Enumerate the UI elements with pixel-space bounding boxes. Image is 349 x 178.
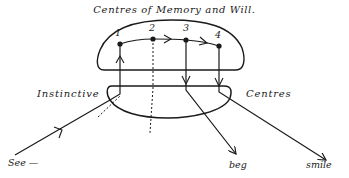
instinctive-label: Instinctive [37, 88, 99, 99]
node-4-label: 4 [215, 29, 221, 40]
node-1 [117, 41, 122, 46]
node-2-label: 2 [149, 22, 155, 33]
output-path-beg [186, 40, 236, 154]
arrow-3-4-icon [199, 37, 207, 45]
input-see-label: See — [8, 157, 38, 168]
lower-centre-shape [107, 86, 231, 118]
output-beg-label: beg [229, 159, 247, 170]
centres-label: Centres [246, 88, 291, 99]
output-smile-label: smile [306, 159, 332, 170]
node-1-label: 1 [115, 27, 121, 38]
diagram-title: Centres of Memory and Will. [0, 4, 349, 15]
output-path-smile [219, 46, 326, 160]
node-3-label: 3 [183, 22, 189, 33]
node-2 [150, 36, 155, 41]
node-3 [183, 37, 188, 42]
input-path-see [15, 44, 120, 155]
node-4 [216, 43, 221, 48]
